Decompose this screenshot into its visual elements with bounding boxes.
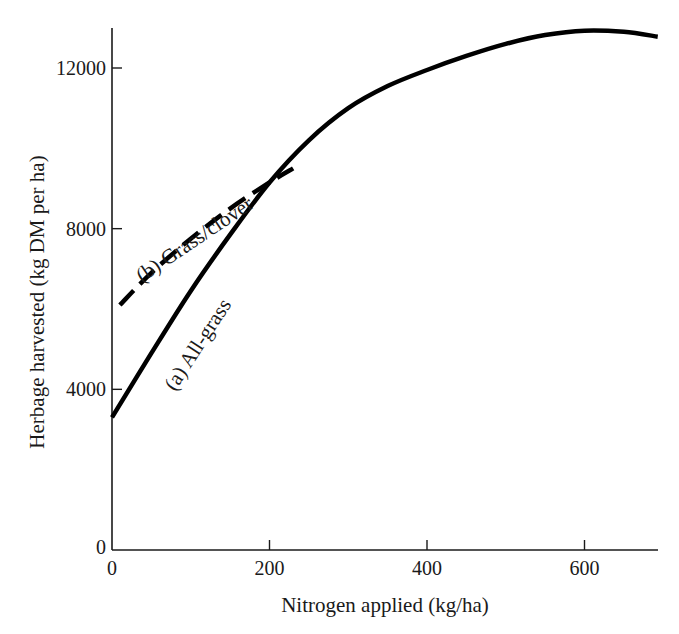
x-tick-label: 0	[107, 557, 117, 579]
axes: 040008000120000200400600	[56, 28, 658, 579]
labels-layer: (a) All-grass(b) Grass/clover	[131, 191, 257, 394]
y-tick-label: 0	[96, 536, 106, 558]
y-tick-label: 12000	[56, 57, 106, 79]
x-tick-label: 200	[255, 557, 285, 579]
series-label-grass-clover: (b) Grass/clover	[131, 191, 257, 287]
y-axis-label: Herbage harvested (kg DM per ha)	[25, 155, 49, 448]
y-tick-label: 8000	[66, 218, 106, 240]
x-tick-label: 400	[412, 557, 442, 579]
x-axis-label: Nitrogen applied (kg/ha)	[281, 593, 489, 617]
series-label-all-grass: (a) All-grass	[159, 294, 236, 395]
x-tick-label: 600	[570, 557, 600, 579]
line-chart: 040008000120000200400600 (a) All-grass(b…	[0, 0, 679, 634]
y-tick-label: 4000	[66, 378, 106, 400]
